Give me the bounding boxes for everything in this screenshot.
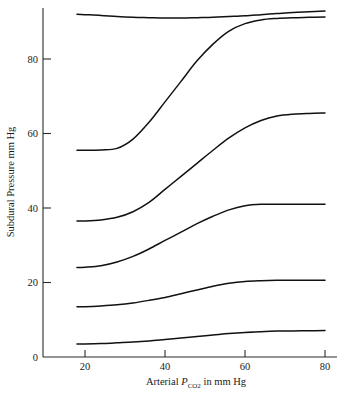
data-curve-curve-6 [77,331,325,344]
x-tick-label-40: 40 [160,361,171,372]
y-tick-label-60: 60 [28,128,39,139]
subdural-pressure-line-chart: 020406080 20406080 Arterial PCO2 in mm H… [0,0,344,394]
data-curve-curve-5 [77,280,325,307]
axes-group [43,8,337,357]
x-tick-label-80: 80 [320,361,331,372]
data-curves [77,11,325,344]
data-curve-curve-2 [77,17,325,150]
y-axis-ticks: 020406080 [28,54,52,363]
y-tick-label-20: 20 [28,277,39,288]
data-curve-curve-4 [77,204,325,267]
y-tick-label-0: 0 [33,352,38,363]
y-tick-label-40: 40 [28,203,39,214]
y-axis-title: Subdural Pressure mm Hg [5,126,16,237]
x-tick-label-60: 60 [240,361,251,372]
chart-figure: 020406080 20406080 Arterial PCO2 in mm H… [0,0,344,394]
data-curve-curve-1 [77,11,325,18]
x-tick-label-20: 20 [80,361,91,372]
y-tick-label-80: 80 [28,54,39,65]
x-axis-ticks: 20406080 [80,350,331,372]
x-axis-title: Arterial PCO2 in mm Hg [146,376,247,390]
